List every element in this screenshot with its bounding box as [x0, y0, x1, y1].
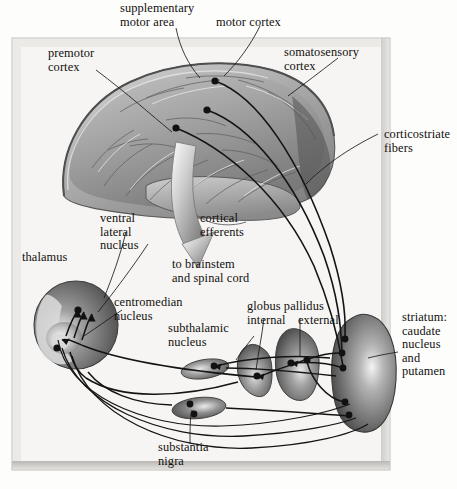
label-premotor-cortex: premotor cortex	[48, 47, 94, 74]
label-motor-cortex: motor cortex	[216, 16, 281, 30]
label-globus-pallidus-internal: internal	[247, 314, 286, 328]
label-striatum: striatum: caudate nucleus and putamen	[402, 311, 447, 379]
label-substantia-nigra: substantia nigra	[158, 441, 209, 468]
label-globus-pallidus: globus pallidus	[247, 300, 324, 314]
label-subthalamic-nucleus: subthalamic nucleus	[168, 322, 229, 349]
cortex-origin-dot-premotor	[172, 124, 179, 131]
label-cortical-efferents: cortical efferents	[200, 212, 244, 239]
label-to-brainstem-and-spinal-cord: to brainstem and spinal cord	[172, 258, 249, 285]
label-ventral-lateral-nucleus: ventral lateral nucleus	[100, 212, 139, 253]
label-supplementary-motor-area: supplementary motor area	[120, 2, 194, 29]
cortex-origin-dot-sma	[211, 77, 218, 84]
label-globus-pallidus-external: external	[298, 314, 339, 328]
cortex-origin-dot-motor	[203, 106, 210, 113]
label-thalamus: thalamus	[22, 251, 68, 265]
label-somatosensory-cortex: somatosensory cortex	[284, 46, 359, 73]
label-corticostriate-fibers: corticostriate fibers	[384, 128, 450, 155]
figure-canvas: supplementary motor area motor cortex so…	[0, 0, 457, 489]
label-centromedian-nucleus: centromedian nucleus	[114, 296, 183, 323]
